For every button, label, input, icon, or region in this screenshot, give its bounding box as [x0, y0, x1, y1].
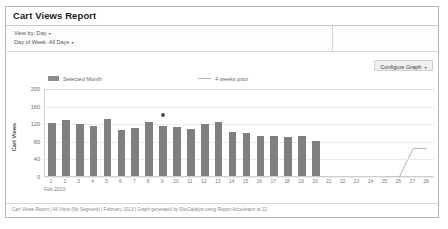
- legend-label-four-weeks-prior: 4 weeks prior: [215, 76, 248, 82]
- y-axis-tick-label: 40: [18, 156, 40, 162]
- grid-line: [45, 107, 434, 108]
- view-by-dropdown[interactable]: View by: Day▾: [14, 30, 51, 36]
- view-by-label: View by: Day: [14, 30, 47, 36]
- x-axis-tick-label: 25: [382, 178, 388, 184]
- x-axis-tick-label: 10: [173, 178, 179, 184]
- y-axis-tick-label: 200: [18, 86, 40, 92]
- bar: [173, 127, 181, 176]
- x-axis-tick-label: 16: [257, 178, 263, 184]
- bar: [76, 124, 84, 176]
- x-axis-tick-label: 11: [187, 178, 192, 184]
- bar: [159, 126, 167, 176]
- x-axis-tick-label: 15: [243, 178, 249, 184]
- x-axis-ticks: 1234567891011121314151617181920212223242…: [44, 178, 434, 188]
- x-axis-tick-label: 18: [284, 178, 290, 184]
- bar: [118, 130, 126, 176]
- y-axis-tick-label: 120: [18, 121, 40, 127]
- x-axis-tick-label: 12: [201, 178, 207, 184]
- x-axis-tick-label: 26: [395, 178, 401, 184]
- configure-graph-label: Configure Graph: [380, 64, 421, 70]
- x-axis-tick-label: 8: [147, 178, 150, 184]
- window-titlebar: Cart Views Report: [6, 7, 438, 26]
- bar: [215, 122, 223, 176]
- x-axis-tick-label: 3: [77, 178, 80, 184]
- x-axis-tick-label: 9: [161, 178, 164, 184]
- prior-period-polyline: [385, 148, 427, 177]
- legend-item-selected-month: Selected Month: [48, 76, 102, 82]
- chevron-down-icon: ▾: [49, 31, 52, 36]
- filter-panel: View by: Day▾ Day of Week: All Days▾: [7, 26, 333, 52]
- legend-bar-swatch-icon: [48, 76, 59, 81]
- x-axis-tick-label: 6: [119, 178, 122, 184]
- x-axis-tick-label: 5: [105, 178, 108, 184]
- x-axis-tick-label: 24: [368, 178, 374, 184]
- y-axis-tick-label: 80: [18, 139, 40, 145]
- x-axis-month-label: Feb 2013: [44, 186, 65, 192]
- x-axis-tick-label: 19: [298, 178, 304, 184]
- x-axis-tick-label: 2: [63, 178, 66, 184]
- configure-graph-button[interactable]: Configure Graph▾: [374, 60, 433, 71]
- bar: [243, 133, 251, 176]
- bar: [145, 122, 153, 176]
- y-axis-tick-label: 160: [18, 104, 40, 110]
- plot-canvas: [44, 89, 434, 177]
- bar: [201, 124, 209, 176]
- x-axis-tick-label: 20: [312, 178, 318, 184]
- footer-metadata: Cart Views Report | All Visits (No Segme…: [12, 207, 267, 212]
- bar: [312, 141, 320, 176]
- page-title: Cart Views Report: [13, 10, 96, 21]
- bar: [62, 120, 70, 176]
- bar: [90, 126, 98, 176]
- legend-label-selected-month: Selected Month: [63, 76, 102, 82]
- legend-line-swatch-icon: [198, 78, 211, 79]
- filter-panel-right: [333, 26, 438, 52]
- chart-area: Cart Views 04080120160200 12345678910111…: [6, 89, 438, 201]
- x-axis-tick-label: 14: [229, 178, 235, 184]
- x-axis-tick-label: 23: [354, 178, 360, 184]
- filter-bar: View by: Day▾ Day of Week: All Days▾: [6, 26, 438, 52]
- report-footer: Cart Views Report | All Visits (No Segme…: [6, 203, 438, 217]
- bar: [104, 119, 112, 176]
- bar: [298, 136, 306, 176]
- grid-line: [45, 89, 434, 90]
- x-axis-tick-label: 4: [91, 178, 94, 184]
- day-of-week-label: Day of Week: All Days: [14, 39, 69, 45]
- y-axis-tick-label: 0: [18, 174, 40, 180]
- bar: [187, 129, 195, 176]
- x-axis-tick-label: 17: [270, 178, 276, 184]
- y-axis-ticks: 04080120160200: [16, 89, 40, 177]
- day-of-week-dropdown[interactable]: Day of Week: All Days▾: [14, 39, 74, 45]
- bar: [131, 128, 139, 176]
- bar: [48, 123, 56, 176]
- chart-legend: Selected Month 4 weeks prior: [6, 73, 438, 87]
- chevron-down-icon: ▾: [424, 63, 427, 71]
- legend-item-four-weeks-prior: 4 weeks prior: [198, 76, 248, 82]
- x-axis-tick-label: 1: [50, 178, 53, 184]
- highlight-point: [161, 113, 165, 117]
- x-axis-tick-label: 21: [326, 178, 332, 184]
- bar: [257, 136, 265, 176]
- bar: [229, 132, 237, 176]
- chevron-down-icon: ▾: [71, 40, 74, 45]
- bar: [270, 136, 278, 176]
- x-axis-tick-label: 27: [409, 178, 415, 184]
- x-axis-tick-label: 13: [215, 178, 221, 184]
- x-axis-tick-label: 7: [133, 178, 136, 184]
- x-axis-tick-label: 28: [423, 178, 429, 184]
- x-axis-tick-label: 22: [340, 178, 346, 184]
- report-panel: Cart Views Report View by: Day▾ Day of W…: [5, 6, 439, 218]
- bar: [284, 137, 292, 176]
